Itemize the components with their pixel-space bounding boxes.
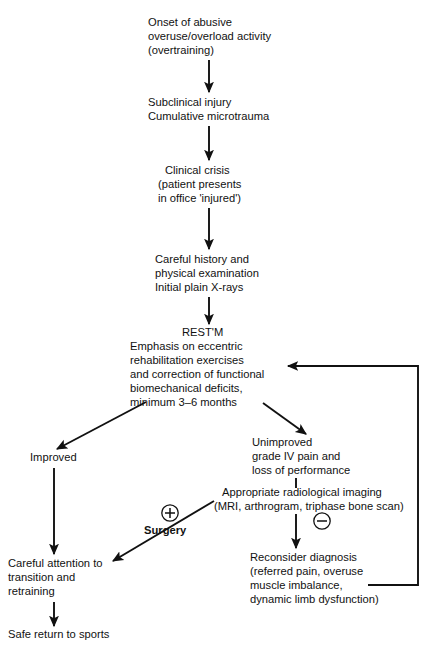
annotation-negative-finding [314,513,330,529]
node-crisis-line-3: in office 'injured') [158,192,241,204]
node-careful-history: Careful history and physical examination… [155,253,259,293]
node-subclinical-line-1: Subclinical injury [148,96,232,108]
node-unimproved-line-3: loss of performance [252,464,350,476]
node-improved: Improved [30,451,77,463]
node-transition-line-3: retraining [8,585,55,597]
node-onset-line-3: (overtraining) [148,44,214,56]
node-unimproved-line-1: Unimproved [252,436,312,448]
node-clinical-crisis: Clinical crisis (patient presents in off… [158,164,242,204]
node-crisis-line-1: Clinical crisis [165,164,230,176]
edge-rest-to-improved [57,402,146,449]
node-rest-line-4: biomechanical deficits, [130,382,243,394]
node-radiological-imaging: Appropriate radiological imaging (MRI, a… [214,486,404,512]
node-rest-line-5: minimum 3–6 months [130,396,237,408]
node-transition-line-2: transition and [8,571,75,583]
node-careful-attention-transition: Careful attention to transition and retr… [8,557,103,597]
minus-circle-icon [314,513,330,529]
node-reconsider-line-1: Reconsider diagnosis [250,551,357,563]
node-safe-return-label: Safe return to sports [8,628,110,640]
node-imaging-line-2: (MRI, arthrogram, triphase bone scan) [214,500,404,512]
node-rest-line-3: and correction of functional [130,368,264,380]
node-imaging-line-1: Appropriate radiological imaging [222,486,382,498]
node-history-line-1: Careful history and [155,253,249,265]
node-transition-line-1: Careful attention to [8,557,103,569]
node-crisis-line-2: (patient presents [158,178,242,190]
plus-circle-icon [162,505,178,521]
edge-rest-to-unimproved [263,403,306,434]
node-onset-line-2: overuse/overload activity [148,30,272,42]
node-rest-protocol: REST'M Emphasis on eccentric rehabilitat… [130,326,264,408]
flowchart-page: Onset of abusive overuse/overload activi… [0,0,437,649]
node-history-line-2: physical examination [155,267,259,279]
node-reconsider-line-4: dynamic limb dysfunction) [250,593,379,605]
node-unimproved: Unimproved grade IV pain and loss of per… [252,436,350,476]
node-safe-return-to-sports: Safe return to sports [8,628,110,640]
flowchart-canvas: Onset of abusive overuse/overload activi… [0,0,437,649]
node-reconsider-line-2: (referred pain, overuse [250,565,363,577]
node-rest-line-2: rehabilitation exercises [130,354,244,366]
annotation-surgery-label: Surgery [144,524,187,536]
node-reconsider-diagnosis: Reconsider diagnosis (referred pain, ove… [250,551,379,605]
node-onset-of-abusive-activity: Onset of abusive overuse/overload activi… [148,16,272,56]
node-rest-line-1: Emphasis on eccentric [130,340,243,352]
node-history-line-3: Initial plain X-rays [155,281,244,293]
node-subclinical-injury: Subclinical injury Cumulative microtraum… [148,96,270,122]
node-subclinical-line-2: Cumulative microtrauma [148,110,270,122]
node-reconsider-line-3: muscle imbalance, [250,579,343,591]
node-onset-line-1: Onset of abusive [148,16,232,28]
node-improved-label: Improved [30,451,77,463]
node-unimproved-line-2: grade IV pain and [252,450,340,462]
node-rest-heading: REST'M [182,326,223,338]
